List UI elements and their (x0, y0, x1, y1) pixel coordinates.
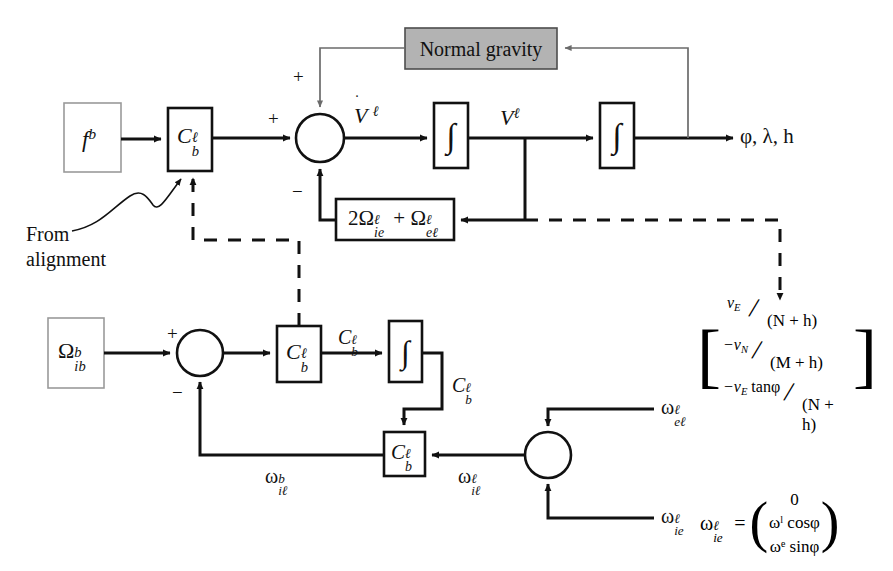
normal-gravity-label: Normal gravity (405, 28, 557, 69)
wire-gravity-to-sum (320, 48, 405, 107)
omega-il-l-label: ω ℓ iℓ (458, 466, 484, 486)
integrator-attitude-label: ∫ (389, 321, 422, 382)
from-alignment-line2: alignment (26, 247, 106, 272)
specific-force-input-label: fb (82, 126, 96, 151)
matrix-row: vE / (N + h) (723, 296, 851, 332)
matrix-right-bracket: ] (853, 326, 877, 385)
velocity-summing-junction-circle (296, 114, 344, 162)
velocity-rate-label: V ̇ ℓ (354, 104, 379, 127)
matrix-row: −vE tanφ / (N + h) (723, 380, 851, 416)
coriolis-term-label: 2Ω ℓ ie + Ω ℓ eℓ (348, 208, 440, 229)
from-alignment-line1: From (26, 222, 106, 247)
matrix-row: −vN / (M + h) (723, 338, 851, 374)
vector-right-paren: ) (821, 500, 840, 546)
dcm-label-mid: C ℓ b (452, 375, 475, 395)
integrator-velocity-label: ∫ (434, 103, 468, 168)
wire-coriolis-to-sum (320, 169, 336, 220)
dcm-label-top: C ℓ b (338, 327, 361, 347)
matrix-left-bracket: [ (697, 326, 721, 385)
attitude-sum-plus: + (167, 323, 178, 345)
omega-ie-lhs: ω ℓ ie (700, 512, 726, 535)
angular-rate-input-label: Ω b ib (58, 340, 90, 362)
vector-left-paren: ( (749, 500, 768, 546)
omega-el-l-label: ω ℓ eℓ (661, 397, 688, 417)
wire-dcm-feedback-to-sum (200, 382, 384, 455)
vector-row: ωˡ cosφ (769, 511, 820, 534)
velocity-sum-plus-left: + (268, 108, 279, 130)
diagram-vector-layer (0, 0, 893, 571)
vector-row: 0 (790, 488, 799, 511)
velocity-sum-plus-top: + (293, 66, 304, 88)
dcm-feedback-label: C ℓ b (391, 442, 416, 463)
vector-row: ωᵉ sinφ (770, 535, 819, 558)
wire-dashed-velocity-to-matrix (525, 220, 780, 300)
position-output-label: φ, λ, h (740, 126, 794, 147)
integrator-position-label: ∫ (600, 103, 634, 168)
from-alignment-note: From alignment (26, 222, 106, 272)
wire-dashed-dcm-update (193, 178, 299, 326)
dcm-gyro-label: C ℓ b (286, 341, 312, 363)
omega-ie-equals: = (734, 512, 745, 535)
omega-ie-vector-equation: ω ℓ ie = ( 0 ωˡ cosφ ωᵉ sinφ ) (700, 488, 840, 558)
velocity-label: Vℓ (500, 106, 520, 129)
omega-ie-l-label: ω ℓ ie (661, 506, 687, 526)
diagram-canvas: fb Ω b ib C ℓ b C ℓ b C ℓ b Normal gravi… (0, 0, 893, 571)
dcm-accel-label: C ℓ b (177, 125, 203, 147)
wire-omega-ie-to-ratesum (548, 484, 654, 518)
wire-omega-el-to-ratesum (548, 409, 654, 426)
velocity-sum-minus-bottom: − (292, 181, 303, 203)
rate-summing-junction-circle (525, 432, 571, 478)
omega-il-b-label: ω b iℓ (265, 466, 291, 486)
attitude-summing-junction-circle (177, 330, 223, 376)
omega-el-vector-equation: [ vE / (N + h) −vN / (M + h) (697, 296, 877, 416)
attitude-sum-minus: − (172, 382, 183, 404)
